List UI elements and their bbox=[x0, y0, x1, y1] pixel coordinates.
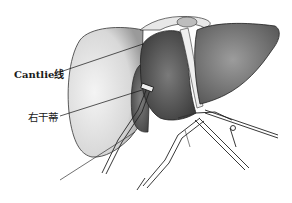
hepatic-ligament bbox=[140, 16, 210, 30]
left-liver-lobe bbox=[195, 23, 280, 104]
right-pedicle-label: 右干蒂 bbox=[28, 112, 58, 123]
down-right-clamp bbox=[195, 118, 249, 170]
liver-illustration bbox=[0, 0, 292, 203]
vena-cava bbox=[177, 17, 197, 27]
cantlie-line-label: Cantlie线 bbox=[14, 70, 64, 80]
